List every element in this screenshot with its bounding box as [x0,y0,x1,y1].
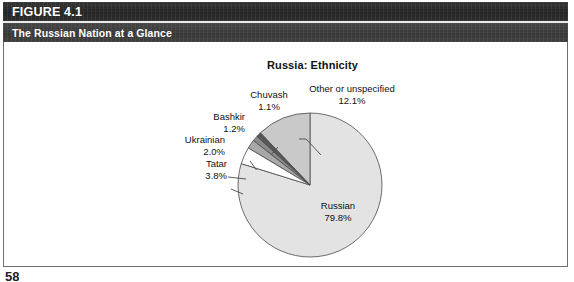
callout-ukrainian-value: 2.0% [155,146,225,158]
figure-subtitle-band: The Russian Nation at a Glance [3,23,568,42]
callout-tatar-name: Tatar [206,158,227,169]
callout-russian-name: Russian [321,200,355,211]
callout-chuvash: Chuvash 1.1% [233,89,305,112]
figure-header: FIGURE 4.1 The Russian Nation at a Glanc… [3,2,568,42]
callout-russian: Russian 79.8% [303,200,373,223]
callout-bashkir-value: 1.2% [179,123,245,135]
callout-tatar-value: 3.8% [165,170,227,182]
callout-other-name: Other or unspecified [309,83,395,94]
figure-number-band: FIGURE 4.1 [3,2,568,21]
chart-area: Russia: Ethnicity Chuvash 1.1% Other or … [3,42,568,267]
page-number: 58 [5,270,19,282]
callout-russian-value: 79.8% [303,212,373,224]
figure-number-label: FIGURE 4.1 [12,5,82,19]
callout-chuvash-name: Chuvash [250,89,288,100]
callout-ukrainian: Ukrainian 2.0% [155,134,225,157]
callout-other-value: 12.1% [297,95,407,107]
callout-bashkir-name: Bashkir [213,111,245,122]
pie-slice-group [238,113,382,257]
callout-tatar: Tatar 3.8% [165,158,227,181]
figure-subtitle-label: The Russian Nation at a Glance [12,27,172,39]
callout-ukrainian-name: Ukrainian [185,134,225,145]
callout-other: Other or unspecified 12.1% [297,83,407,106]
pie-chart [3,42,568,267]
callout-bashkir: Bashkir 1.2% [179,111,245,134]
